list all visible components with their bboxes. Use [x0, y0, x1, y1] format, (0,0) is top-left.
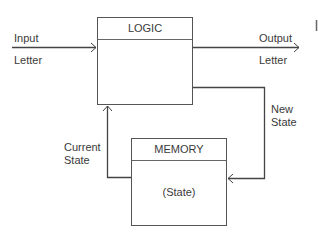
new-state-label-line2: State [271, 116, 297, 129]
output-sub-label: Letter [259, 54, 287, 67]
memory-block-content: (State) [132, 186, 226, 198]
memory-block: MEMORY (State) [131, 138, 227, 226]
current-state-label-line1: Current [64, 141, 101, 154]
current-state-arrow [103, 106, 131, 178]
input-sub-label: Letter [14, 54, 42, 67]
memory-block-title: MEMORY [132, 139, 226, 161]
output-label: Output [259, 32, 292, 45]
logic-block-title: LOGIC [98, 18, 192, 40]
logic-block: LOGIC [97, 17, 193, 105]
new-state-label-line1: New [271, 103, 293, 116]
current-state-label-line2: State [64, 154, 90, 167]
input-label: Input [14, 32, 38, 45]
